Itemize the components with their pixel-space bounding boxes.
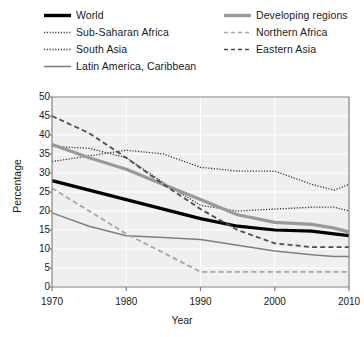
legend-item-label: Eastern Asia <box>256 44 316 55</box>
x-tick-label: 1970 <box>41 296 63 307</box>
legend-line-swatch-icon <box>44 27 71 38</box>
legend-item[interactable]: Latin America, Caribbean <box>44 59 196 74</box>
chart-figure: WorldSub-Saharan AfricaSouth AsiaLatin A… <box>0 0 364 337</box>
legend-line-swatch-icon <box>224 27 251 38</box>
legend-item[interactable]: Eastern Asia <box>224 42 316 57</box>
legend-line-swatch-icon <box>224 10 251 21</box>
legend-item-label: Developing regions <box>256 10 348 21</box>
legend-item-label: Northern Africa <box>256 27 328 38</box>
legend-item[interactable]: World <box>44 8 104 23</box>
x-tick-label: 2000 <box>264 296 286 307</box>
x-tick-label: 2010 <box>338 296 360 307</box>
legend-item-label: South Asia <box>76 44 127 55</box>
legend-item-label: Sub-Saharan Africa <box>76 27 169 38</box>
legend-line-swatch-icon <box>44 44 71 55</box>
legend-item[interactable]: South Asia <box>44 42 127 57</box>
legend-item-label: World <box>76 10 104 21</box>
legend-item-label: Latin America, Caribbean <box>76 61 196 72</box>
legend-item[interactable]: Northern Africa <box>224 25 328 40</box>
legend-item[interactable]: Sub-Saharan Africa <box>44 25 169 40</box>
chart-legend: WorldSub-Saharan AfricaSouth AsiaLatin A… <box>44 8 360 82</box>
x-tick-label: 1980 <box>115 296 137 307</box>
legend-item[interactable]: Developing regions <box>224 8 348 23</box>
x-tick-label: 1990 <box>189 296 211 307</box>
legend-line-swatch-icon <box>224 44 251 55</box>
legend-line-swatch-icon <box>44 61 71 72</box>
plot-area-wrapper: 05101520253035404550 Percentage Year 197… <box>0 88 364 337</box>
legend-line-swatch-icon <box>44 10 71 21</box>
